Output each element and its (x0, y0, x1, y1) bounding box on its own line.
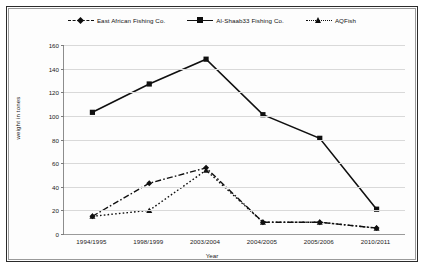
y-tick-label: 0 (33, 231, 59, 238)
y-tick-label: 120 (33, 89, 59, 96)
data-point-marker (90, 110, 95, 115)
y-tick-label: 60 (33, 160, 59, 167)
x-tick-label: 2004/2005 (247, 238, 277, 245)
data-point-marker (146, 180, 152, 186)
gridline (64, 69, 405, 70)
chart-frame: East African Fishing Co. Al-Shaab33 Fish… (6, 6, 418, 262)
data-point-marker (147, 81, 152, 86)
x-tick-label: 2010/2011 (361, 238, 391, 245)
y-tick-mark (61, 69, 64, 70)
gridline (64, 140, 405, 141)
y-tick-mark (61, 234, 64, 235)
x-tick-label: 1994/1995 (76, 238, 106, 245)
plot-grid (63, 45, 405, 235)
x-tick-label: 2005/2006 (304, 238, 334, 245)
gridline (64, 116, 405, 117)
y-axis-tick-labels: 020406080100120140160 (33, 45, 59, 235)
x-axis-title: Year (7, 252, 417, 259)
y-tick-label: 20 (33, 207, 59, 214)
gridline (64, 210, 405, 211)
x-tick-label: 1998/1999 (133, 238, 163, 245)
gridline (64, 163, 405, 164)
gridline (64, 187, 405, 188)
data-point-marker (203, 57, 208, 62)
y-tick-label: 160 (33, 42, 59, 49)
y-tick-label: 140 (33, 65, 59, 72)
x-tick-label: 2003/2004 (190, 238, 220, 245)
gridline (64, 45, 405, 46)
y-tick-mark (61, 92, 64, 93)
y-tick-mark (61, 210, 64, 211)
y-tick-mark (61, 45, 64, 46)
y-tick-label: 40 (33, 183, 59, 190)
gridline (64, 234, 405, 235)
y-axis-title: weight in tones (15, 83, 21, 153)
y-tick-label: 100 (33, 112, 59, 119)
series-line (92, 168, 376, 228)
plot-area: weight in tones 020406080100120140160 19… (7, 7, 417, 261)
y-tick-mark (61, 187, 64, 188)
x-axis-tick-labels: 1994/19951998/19992003/20042004/20052005… (63, 238, 405, 252)
y-tick-mark (61, 116, 64, 117)
y-tick-label: 80 (33, 136, 59, 143)
y-tick-mark (61, 163, 64, 164)
y-tick-mark (61, 140, 64, 141)
gridline (64, 92, 405, 93)
series-line (92, 170, 376, 228)
